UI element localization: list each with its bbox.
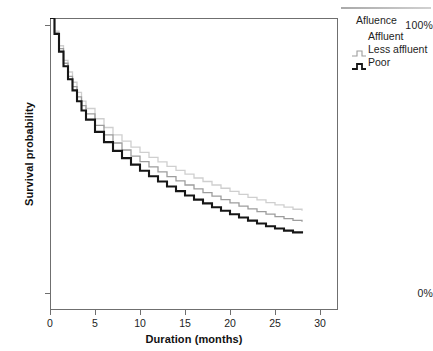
- survival-curve-poor: [50, 18, 302, 234]
- y-tick-label-0: 0%: [389, 287, 433, 299]
- survival-curves: [50, 18, 338, 310]
- legend-label: Poor: [368, 57, 390, 68]
- x-tick-mark-30: [320, 310, 321, 315]
- y-tick-mark-0: [45, 293, 50, 294]
- x-tick-label-10: 10: [125, 317, 155, 329]
- x-tick-label-30: 30: [305, 317, 335, 329]
- legend-swatch-icon: [352, 57, 366, 67]
- x-tick-label-20: 20: [215, 317, 245, 329]
- y-tick-mark-100: [45, 25, 50, 26]
- legend-item-affluent[interactable]: Affluent: [352, 30, 433, 42]
- x-tick-mark-0: [50, 310, 51, 315]
- top-divider-rule: [341, 7, 431, 9]
- x-tick-mark-15: [185, 310, 186, 315]
- x-axis-title: Duration (months): [50, 333, 338, 345]
- x-tick-label-0: 0: [35, 317, 65, 329]
- x-tick-mark-25: [275, 310, 276, 315]
- chart-page: 100% 0% Survival probability 05101520253…: [0, 0, 433, 351]
- legend-label: Less affluent: [368, 44, 427, 55]
- x-tick-label-25: 25: [260, 317, 290, 329]
- y-axis-title: Survival probability: [23, 59, 35, 249]
- legend-title: Afluence: [356, 14, 433, 26]
- x-tick-label-15: 15: [170, 317, 200, 329]
- legend-label: Affluent: [368, 31, 403, 42]
- x-tick-label-5: 5: [80, 317, 110, 329]
- x-tick-mark-5: [95, 310, 96, 315]
- legend: Afluence AffluentLess affluentPoor: [352, 14, 433, 69]
- legend-item-poor[interactable]: Poor: [352, 56, 433, 68]
- x-tick-mark-10: [140, 310, 141, 315]
- legend-swatch-icon: [352, 44, 366, 54]
- x-tick-mark-20: [230, 310, 231, 315]
- legend-items: AffluentLess affluentPoor: [352, 30, 433, 68]
- legend-item-less-affluent[interactable]: Less affluent: [352, 43, 433, 55]
